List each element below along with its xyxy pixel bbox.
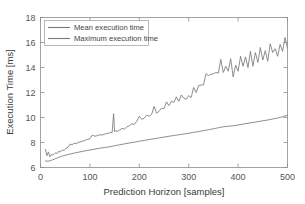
x-tick-label: 200: [132, 172, 147, 182]
legend: Mean execution time Maximum execution ti…: [45, 21, 158, 46]
legend-label-mean: Mean execution time: [74, 23, 144, 32]
y-tick-label: 14: [25, 63, 35, 73]
y-tick-label: 18: [25, 13, 35, 23]
y-tick-label: 12: [25, 88, 35, 98]
y-axis-title: Execution Time [ms]: [4, 49, 15, 135]
y-tick-label: 8: [30, 138, 35, 148]
x-tick-label: 0: [38, 172, 43, 182]
x-tick-label: 300: [181, 172, 196, 182]
x-tick-label: 100: [82, 172, 97, 182]
execution-time-line-chart: 681012141618 0100200300400500 Prediction…: [0, 0, 305, 204]
legend-label-maximum: Maximum execution time: [74, 34, 158, 43]
y-tick-label: 10: [25, 113, 35, 123]
y-tick-label: 6: [30, 163, 35, 173]
chart-figure: 681012141618 0100200300400500 Prediction…: [0, 0, 305, 204]
x-axis-title: Prediction Horizon [samples]: [104, 186, 225, 197]
x-tick-label: 500: [280, 172, 295, 182]
y-tick-label: 16: [25, 38, 35, 48]
x-tick-label: 400: [231, 172, 246, 182]
